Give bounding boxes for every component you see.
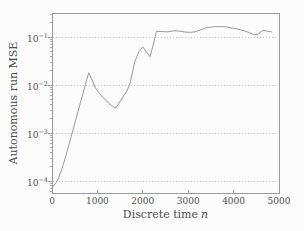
x-tick-label: 2000 [127,196,159,206]
y-tick-label: 10−3 [14,127,48,140]
plot-frame [52,13,279,193]
x-tick-label: 5000 [263,196,295,206]
y-tick-exponent: −2 [38,80,48,88]
x-tick-label: 3000 [172,196,204,206]
mse-line-chart: Autonomous run MSE Discrete timen 010002… [0,0,304,231]
y-tick-exponent: −1 [38,32,48,40]
y-tick-exponent: −3 [38,128,48,136]
y-tick-exponent: −4 [38,176,48,184]
mse-series-line [52,27,272,188]
x-axis-label-text: Discrete time [123,208,198,221]
x-tick-label: 1000 [81,196,113,206]
x-tick-label: 4000 [218,196,250,206]
y-tick-label: 10−4 [14,175,48,188]
x-axis-label-variable: n [201,208,208,221]
x-axis-label: Discrete timen [52,208,279,222]
y-tick-label: 10−1 [14,31,48,44]
y-tick-label: 10−2 [14,79,48,92]
x-tick-label: 0 [36,196,68,206]
